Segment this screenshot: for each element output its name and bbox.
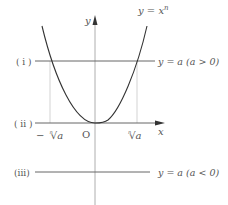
- y-axis-arrow-icon: [93, 15, 98, 25]
- tag-ii: ( ii ): [14, 119, 33, 129]
- pos-root-label: n√a: [128, 129, 142, 141]
- tag-i: ( i ): [16, 57, 32, 67]
- line-iii-label: y = a (a < 0): [157, 167, 219, 178]
- origin-label: O: [82, 129, 90, 140]
- tag-iii: (iii): [14, 168, 30, 178]
- y-axis-label: y: [84, 15, 91, 26]
- x-axis-label: x: [158, 126, 164, 137]
- curve-y-equals-x-n: [42, 26, 147, 123]
- power-function-diagram: y = xn y x O ( i ) ( ii ) (iii) y = a (a…: [0, 0, 228, 205]
- x-axis-arrow-icon: [155, 121, 165, 126]
- neg-root-label: − n√a: [36, 129, 63, 141]
- line-i-label: y = a (a > 0): [157, 56, 219, 67]
- curve-label: y = xn: [137, 4, 169, 16]
